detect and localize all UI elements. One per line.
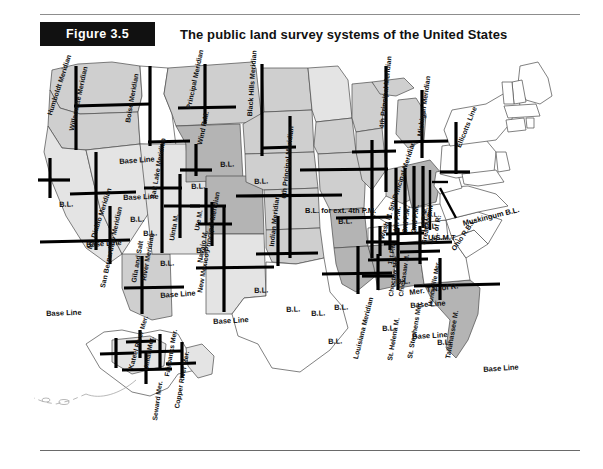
- figure-page: Figure 3.5 The public land survey system…: [0, 0, 603, 469]
- aleutian-island-2: [42, 398, 50, 402]
- inset-alaska-aleutians: [34, 394, 86, 404]
- state-minnesota: [308, 66, 352, 122]
- state-connecticut: [506, 118, 526, 132]
- state-vermont: [502, 82, 514, 104]
- map-svg: .st{stroke:#4a4a4a;stroke-width:.7;strok…: [0, 48, 603, 448]
- state-wyoming: [176, 124, 243, 182]
- state-massachusetts: [504, 104, 540, 118]
- bottom-rule: [40, 450, 580, 451]
- aleutian-island-1: [59, 400, 69, 405]
- state-arkansas: [330, 208, 368, 248]
- state-oklahoma: [266, 228, 324, 264]
- state-rhode-island: [526, 118, 534, 128]
- state-north-dakota: [262, 68, 312, 112]
- us-public-land-survey-map: .st{stroke:#4a4a4a;stroke-width:.7;strok…: [0, 48, 603, 448]
- figure-number-tag: Figure 3.5: [40, 22, 155, 46]
- state-florida: [424, 280, 480, 358]
- inset-alaska-panhandle: [186, 344, 214, 378]
- state-iowa: [314, 118, 356, 154]
- state-new-jersey: [496, 152, 510, 172]
- state-montana: [164, 62, 262, 126]
- figure-caption-title: The public land survey systems of the Un…: [180, 22, 507, 46]
- top-rule: [40, 14, 580, 15]
